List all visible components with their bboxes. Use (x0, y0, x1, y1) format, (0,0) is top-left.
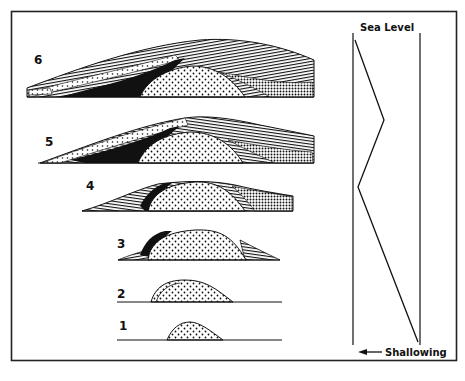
stage-label: 1 (119, 319, 127, 333)
mound-core (151, 280, 233, 302)
stage-label: 6 (34, 53, 42, 67)
stage-6: 6 (27, 39, 314, 97)
flank-strata-right (240, 240, 280, 260)
stage-2: 2 (117, 280, 282, 302)
stage-label: 5 (45, 135, 53, 149)
sea-level-curve (355, 40, 418, 342)
mound-core (167, 322, 223, 340)
sea-level-panel: Sea Level Shallowing (353, 22, 447, 358)
stage-label: 2 (117, 287, 125, 301)
figure-canvas: 6 5 4 3 (0, 0, 465, 381)
sea-level-title: Sea Level (360, 22, 414, 33)
stage-3: 3 (117, 230, 280, 260)
left-arrow-icon (358, 349, 382, 355)
stage-5: 5 (38, 117, 314, 163)
shallowing-label: Shallowing (385, 347, 447, 358)
stage-4: 4 (82, 179, 293, 211)
stage-1: 1 (117, 319, 282, 340)
stage-label: 4 (86, 179, 94, 193)
stage-label: 3 (117, 237, 125, 251)
